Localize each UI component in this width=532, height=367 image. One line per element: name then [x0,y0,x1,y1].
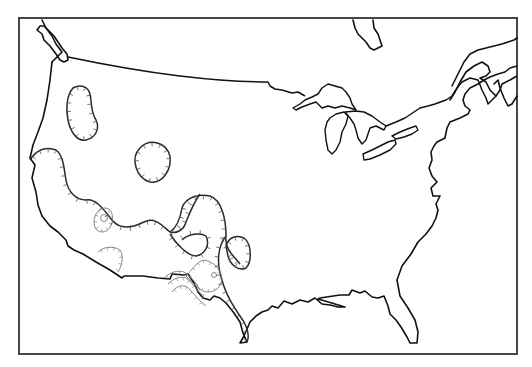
hachure-tick [180,286,181,289]
hachure-tick [179,226,181,229]
hachure-tick [93,202,95,205]
hachure-tick [109,223,112,224]
hachure-tick [161,226,164,229]
contour-northwest-blob [67,86,98,140]
hachure-tick [89,113,93,114]
hachure-tick [120,226,121,230]
gaspe-peninsula [450,62,496,100]
hachure-tick [93,129,97,130]
hachure-tick [222,292,226,294]
lake-ontario [392,126,418,139]
us-contour-map [0,0,532,367]
hachure-tick [164,150,167,152]
hachure-tick [154,221,156,225]
hachure-marks [33,86,251,340]
hachure-tick [147,221,148,225]
lake-erie [363,140,396,160]
hachure-tick [235,261,238,264]
hachure-tick [187,281,189,283]
contour-inner-nm-core [212,273,217,278]
hachure-tick [210,197,212,200]
hachure-tick [144,145,146,148]
hachure-tick [186,212,190,214]
hachure-tick [98,211,100,213]
hachure-tick [235,237,236,241]
hachure-tick [199,302,201,304]
vancouver-island [37,26,68,62]
hachure-tick [167,276,169,278]
hachure-tick [190,292,192,294]
hachure-tick [190,231,191,235]
hachure-tick [96,215,99,216]
hachure-tick [217,275,221,276]
hachure-tick [201,254,203,257]
hachure-tick [242,238,244,242]
hachure-tick [71,127,75,129]
hachure-tick [116,269,119,271]
hachure-tick [101,250,103,253]
hachure-tick [187,201,190,204]
hachure-tick [229,258,233,260]
hachure-tick [231,308,234,310]
hachure-tick [244,331,248,332]
us-canada-border [68,57,305,96]
hachure-tick [165,166,169,167]
st-lawrence-border [386,76,517,126]
hachure-tick [194,197,195,201]
hachure-tick [193,268,195,270]
hachure-tick [108,211,110,213]
hachure-tick [69,94,73,96]
hachure-tick [137,168,141,169]
hachure-tick [207,247,211,248]
contour-oklahoma-blob [226,236,250,269]
hachure-tick [202,288,203,291]
hachure-tick [83,88,85,91]
hachure-tick [67,103,71,104]
hachure-tick [96,227,99,229]
hachure-tick [241,323,245,325]
hachure-tick [76,134,79,137]
map-frame [19,18,517,354]
hachure-tick [194,297,196,299]
lake-superior [293,84,356,110]
hachure-tick [174,289,176,291]
hachure-tick [214,288,215,291]
hachure-tick [228,242,231,244]
hachure-tick [106,227,108,229]
hachure-tick [139,224,140,228]
hachure-tick [185,287,187,289]
lake-huron [345,111,386,144]
hachure-tick [142,174,145,177]
hachure-tick [189,204,193,206]
hachure-tick [227,300,231,302]
hachure-tick [207,237,211,238]
hachure-tick [182,221,186,222]
hachure-tick [114,248,115,251]
hachure-tick [181,236,184,239]
contour-utah-blob [135,142,170,182]
hachure-tick [77,86,78,90]
hachure-tick [33,156,36,159]
hachure-tick [159,144,161,148]
hachure-tick [118,251,121,252]
hachure-tick [177,278,178,281]
james-bay-inlet [353,20,382,50]
hachure-tick [93,121,97,122]
hachure-tick [209,262,210,265]
hachure-tick [118,263,121,264]
hachure-tick [198,263,200,265]
hachure-tick [58,158,62,159]
hachure-tick [180,217,184,218]
hachure-tick [245,245,249,246]
hachure-tick [182,251,184,254]
us-coastline [30,62,517,343]
hachure-tick [54,151,57,154]
hachure-tick [156,177,158,181]
hachure-tick [40,151,42,155]
hachure-tick [245,261,249,262]
hachure-tick [76,198,78,202]
hachure-tick [192,286,194,288]
hachure-tick [90,134,92,137]
hachure-tick [175,245,178,248]
hachure-tick [244,339,248,340]
